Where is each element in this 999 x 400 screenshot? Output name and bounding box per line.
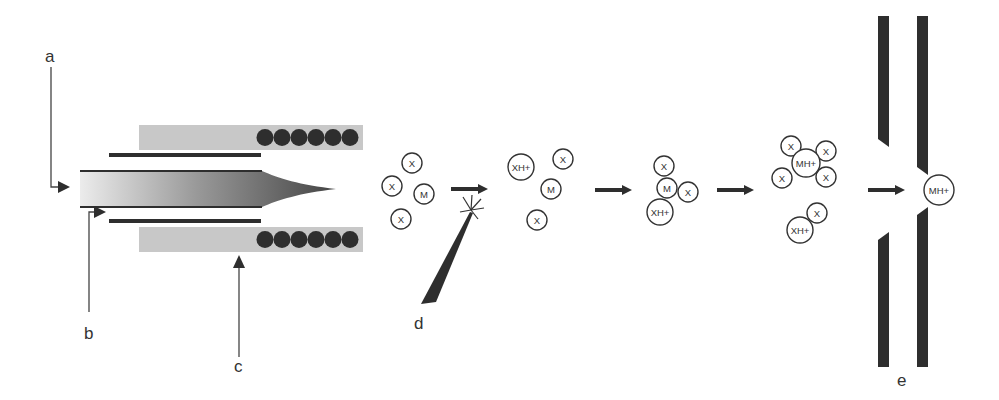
svg-text:X: X	[560, 154, 567, 165]
arrowhead-icon	[478, 184, 488, 194]
upper-heater-block	[139, 125, 363, 150]
apci-source-diagram: a b c	[0, 0, 999, 400]
first-plate-lower	[878, 232, 889, 367]
svg-text:MH+: MH+	[796, 158, 817, 169]
svg-text:M: M	[547, 184, 555, 195]
svg-text:X: X	[779, 173, 786, 184]
stage-2-ionized-molecules: XH+ X M X	[508, 149, 573, 230]
corona-needle: d	[414, 195, 484, 333]
label-c: c	[234, 357, 243, 376]
label-b-pointer: b	[84, 206, 106, 343]
label-b: b	[84, 324, 93, 343]
svg-text:X: X	[661, 161, 668, 172]
label-a: a	[45, 47, 55, 66]
svg-text:M: M	[420, 189, 428, 200]
lower-heater-block	[139, 227, 363, 252]
svg-text:X: X	[409, 158, 416, 169]
svg-text:XH+: XH+	[791, 225, 810, 236]
svg-text:X: X	[788, 141, 795, 152]
label-d: d	[414, 314, 423, 333]
label-e: e	[897, 371, 906, 390]
stage-1-neutral-molecules: X X M X	[382, 153, 434, 229]
label-a-pointer: a	[45, 47, 70, 193]
stage-4-analyte-ion-cluster: X X X X MH+ X XH+	[772, 136, 836, 243]
lower-gas-tube-wall	[109, 219, 261, 223]
svg-text:X: X	[814, 208, 821, 219]
analyte-ion-final: MH+	[924, 175, 954, 205]
svg-text:X: X	[823, 172, 830, 183]
svg-text:XH+: XH+	[651, 207, 670, 218]
svg-text:X: X	[398, 214, 405, 225]
svg-text:X: X	[685, 187, 692, 198]
svg-text:X: X	[823, 146, 830, 157]
second-plate-lower	[917, 207, 928, 367]
second-plate-upper	[917, 16, 928, 175]
arrowhead-icon	[233, 255, 245, 268]
first-plate-upper	[878, 16, 889, 147]
svg-text:M: M	[663, 183, 671, 194]
svg-text:XH+: XH+	[512, 162, 531, 173]
arrowhead-icon	[895, 185, 905, 195]
svg-text:X: X	[389, 181, 396, 192]
label-c-pointer: c	[233, 255, 245, 376]
stage-3-cluster: X X XH+ M	[647, 156, 698, 225]
arrowhead-icon	[744, 185, 754, 195]
capillary-tube	[80, 171, 336, 207]
svg-text:X: X	[534, 215, 541, 226]
upper-gas-tube-wall	[109, 153, 261, 157]
arrowhead-icon	[58, 181, 70, 193]
svg-text:MH+: MH+	[929, 185, 950, 196]
arrowhead-icon	[622, 185, 632, 195]
